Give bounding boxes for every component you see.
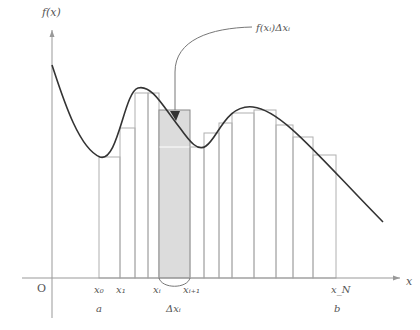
bound-a-label: a	[96, 303, 102, 314]
tick-label-x0: x₀	[94, 284, 104, 295]
origin-label: O	[37, 282, 46, 295]
riemann-rectangle	[148, 93, 159, 278]
tick-label-xi: xᵢ	[153, 284, 161, 295]
riemann-rectangle	[313, 155, 336, 278]
y-axis-label: f(x)	[41, 6, 61, 19]
annotation-arrow	[175, 27, 252, 110]
riemann-rectangle	[293, 137, 313, 278]
riemann-rectangle	[276, 125, 293, 278]
x-axis-label: x	[406, 275, 413, 288]
tick-label-xN: x_N	[331, 284, 352, 296]
annotation-label: f(xᵢ)Δxᵢ	[255, 22, 290, 33]
riemann-rectangles	[99, 93, 336, 278]
riemann-sum-diagram: f(x) x O f(xᵢ)Δxᵢ x₀ x₁ xᵢ xᵢ₊₁ x_N a Δx…	[0, 0, 420, 330]
riemann-rectangle	[120, 128, 135, 278]
riemann-rectangle	[254, 110, 276, 278]
tick-label-xi1: xᵢ₊₁	[183, 284, 200, 295]
tick-label-x1: x₁	[116, 284, 126, 295]
bound-b-label: b	[334, 303, 340, 314]
riemann-rectangle	[135, 93, 148, 278]
riemann-rectangle	[190, 147, 204, 278]
riemann-rectangle	[99, 157, 120, 278]
riemann-rectangle	[232, 113, 254, 278]
riemann-rectangle	[204, 133, 219, 278]
riemann-rectangle	[219, 123, 232, 278]
delta-label: Δxᵢ	[165, 303, 181, 314]
function-curve	[52, 65, 383, 222]
